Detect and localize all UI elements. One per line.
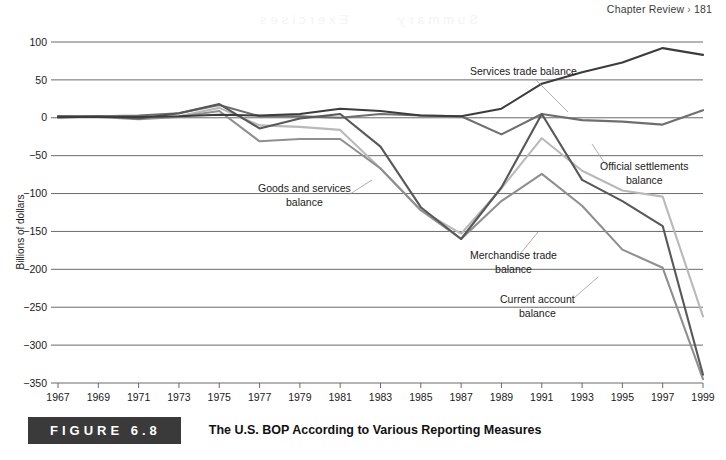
series-line-official-settlements-balance xyxy=(58,105,703,134)
y-axis-tick-label: −300 xyxy=(23,339,47,351)
x-axis-tick-label: 1975 xyxy=(208,391,232,403)
annotation-merchandise-trade-balance: Merchandise tradebalance xyxy=(470,249,557,275)
x-axis-tick-label: 1981 xyxy=(329,391,353,403)
figure-caption-row: FIGURE 6.8 The U.S. BOP According to Var… xyxy=(0,412,726,448)
x-axis-tick-label: 1991 xyxy=(530,391,554,403)
annotation-line-2: balance xyxy=(495,263,532,275)
annotation-line-2: balance xyxy=(519,307,556,319)
figure-number-badge: FIGURE 6.8 xyxy=(28,417,181,444)
x-axis-tick-label: 1967 xyxy=(46,391,70,403)
x-axis-tick-label: 1993 xyxy=(570,391,594,403)
annotation-line-1: Merchandise trade xyxy=(470,249,557,261)
x-axis-tick-label: 1985 xyxy=(409,391,433,403)
x-axis-tick-label: 1983 xyxy=(369,391,393,403)
x-axis-ticks: 1967196919711973197519771979198119831985… xyxy=(46,383,715,403)
chart-figure: 100500−50−100−150−200−250−300−350 196719… xyxy=(0,22,726,412)
y-axis-tick-label: 0 xyxy=(41,111,47,123)
series-line-merchandise-trade-balance xyxy=(58,111,703,379)
annotation-leader-line xyxy=(574,277,598,298)
annotation-line-1: Services trade balance xyxy=(470,65,577,77)
annotation-goods-and-services-balance: Goods and servicesbalance xyxy=(258,182,351,208)
annotation-line-2: balance xyxy=(626,174,663,186)
annotation-leader-line xyxy=(350,180,372,194)
x-axis-tick-label: 1977 xyxy=(248,391,272,403)
x-axis-tick-label: 1995 xyxy=(611,391,635,403)
y-axis-title: Billions of dollars xyxy=(15,194,26,269)
series-line-services-trade-balance xyxy=(58,48,703,117)
annotation-line-2: balance xyxy=(286,196,323,208)
figure-page: Chapter Review›181 SummaryExercises 1005… xyxy=(0,0,726,460)
y-axis-tick-label: 50 xyxy=(35,74,47,86)
x-axis-tick-label: 1997 xyxy=(651,391,675,403)
annotation-labels: Services trade balanceOfficial settlemen… xyxy=(258,65,689,319)
annotation-leader-line xyxy=(536,80,568,112)
x-axis-tick-label: 1989 xyxy=(490,391,514,403)
x-axis-tick-label: 1999 xyxy=(691,391,715,403)
y-axis-ticks: 100500−50−100−150−200−250−300−350 xyxy=(23,36,47,389)
line-chart: 100500−50−100−150−200−250−300−350 196719… xyxy=(0,22,726,412)
y-axis-tick-label: −200 xyxy=(23,263,47,275)
series-line-goods-and-services-balance xyxy=(58,108,703,316)
annotation-line-1: Current account xyxy=(500,293,575,305)
x-axis-tick-label: 1987 xyxy=(449,391,473,403)
figure-caption-title: The U.S. BOP According to Various Report… xyxy=(209,423,542,437)
annotation-current-account-balance: Current accountbalance xyxy=(500,293,575,319)
running-head-label: Chapter Review xyxy=(607,3,685,15)
series-line-current-account-balance xyxy=(58,104,703,375)
series-lines xyxy=(58,48,703,379)
running-head: Chapter Review›181 xyxy=(607,3,712,15)
page-number: 181 xyxy=(694,3,712,15)
chevron-right-icon: › xyxy=(687,4,691,15)
annotation-services-trade-balance: Services trade balance xyxy=(470,65,577,77)
annotation-line-1: Official settlements xyxy=(600,160,689,172)
x-axis-tick-label: 1979 xyxy=(288,391,312,403)
annotation-line-1: Goods and services xyxy=(258,182,351,194)
x-axis-tick-label: 1971 xyxy=(127,391,151,403)
y-axis-tick-label: −100 xyxy=(23,187,47,199)
gridlines xyxy=(51,42,703,383)
y-axis-tick-label: −350 xyxy=(23,377,47,389)
y-axis-tick-label: −150 xyxy=(23,225,47,237)
x-axis-tick-label: 1973 xyxy=(167,391,191,403)
y-axis-tick-label: −50 xyxy=(29,149,47,161)
y-axis-tick-label: 100 xyxy=(29,36,47,48)
annotation-official-settlements-balance: Official settlementsbalance xyxy=(600,160,689,186)
x-axis-tick-label: 1969 xyxy=(87,391,111,403)
y-axis-tick-label: −250 xyxy=(23,301,47,313)
